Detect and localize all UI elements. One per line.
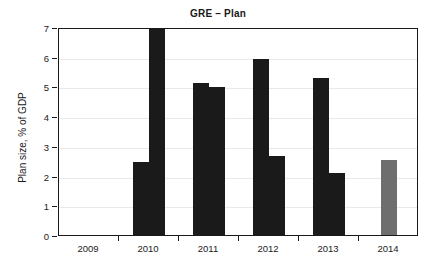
bar	[381, 160, 397, 235]
bar	[133, 162, 149, 235]
plot-area	[58, 28, 418, 236]
x-axis-tick-mark	[118, 236, 119, 241]
gridline	[59, 59, 417, 60]
gridline	[59, 178, 417, 179]
bar	[209, 87, 225, 235]
x-axis-tick-mark	[298, 236, 299, 241]
bar	[149, 28, 165, 235]
x-axis-tick-mark	[238, 236, 239, 241]
gridline	[59, 148, 417, 149]
bar	[329, 173, 345, 235]
y-axis-tick-mark	[52, 28, 57, 29]
x-axis-tick-label: 2010	[137, 243, 158, 254]
gridline	[59, 88, 417, 89]
y-axis-tick-mark	[52, 177, 57, 178]
bar	[269, 156, 285, 235]
bar	[313, 78, 329, 235]
gridline	[59, 118, 417, 119]
y-axis-tick-mark	[52, 147, 57, 148]
y-axis-tick-mark	[52, 117, 57, 118]
y-axis-tick-mark	[52, 58, 57, 59]
x-axis-tick-label: 2009	[77, 243, 98, 254]
bar	[253, 59, 269, 235]
y-axis-title: Plan size, % of GDP	[17, 48, 28, 228]
chart-title: GRE – Plan	[0, 8, 436, 19]
x-axis-tick-mark	[358, 236, 359, 241]
x-axis-tick-label: 2014	[377, 243, 398, 254]
x-axis-tick-label: 2011	[198, 243, 218, 254]
chart-container: GRE – Plan Plan size, % of GDP 01234567 …	[0, 0, 436, 269]
y-axis-tick-mark	[52, 206, 57, 207]
y-axis-tick-mark	[52, 236, 57, 237]
x-axis-tick-label: 2012	[257, 243, 278, 254]
y-axis-tick-mark	[52, 87, 57, 88]
gridline	[59, 207, 417, 208]
x-axis-tick-label: 2013	[317, 243, 338, 254]
bar	[193, 83, 209, 235]
x-axis-tick-mark	[178, 236, 179, 241]
